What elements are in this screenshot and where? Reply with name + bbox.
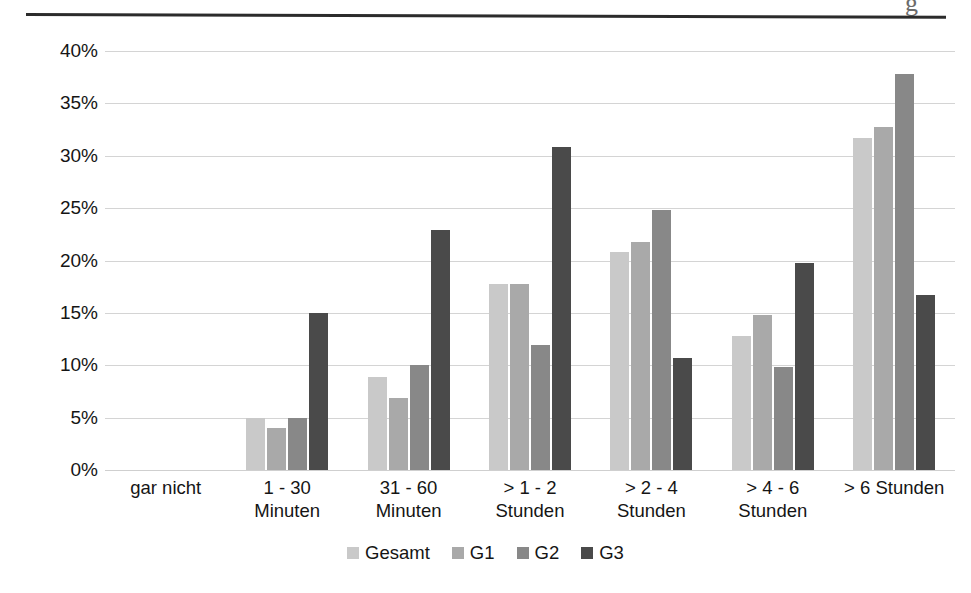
bar[interactable] — [246, 418, 265, 470]
y-axis-tick-label: 40% — [36, 41, 98, 60]
legend-item[interactable]: Gesamt — [347, 543, 430, 563]
bar[interactable] — [631, 242, 650, 470]
legend-swatch-icon — [347, 547, 359, 559]
x-axis-category-label: 1 - 30 Minuten — [226, 476, 347, 522]
y-axis-tick-label: 30% — [36, 146, 98, 165]
y-axis-tick-label: 20% — [36, 251, 98, 270]
bar[interactable] — [916, 295, 935, 470]
legend-label: G3 — [599, 543, 624, 563]
bar[interactable] — [652, 210, 671, 470]
y-axis-tick-label: 35% — [36, 93, 98, 112]
y-axis-tick-label: 0% — [36, 460, 98, 479]
bar[interactable] — [795, 263, 814, 470]
bar-group — [105, 51, 226, 470]
bar[interactable] — [673, 358, 692, 470]
bar[interactable] — [874, 127, 893, 470]
bar[interactable] — [753, 315, 772, 470]
legend-label: Gesamt — [365, 543, 430, 563]
plot-area — [105, 51, 955, 470]
legend-item[interactable]: G3 — [581, 543, 624, 563]
bar[interactable] — [610, 252, 629, 470]
x-axis-labels: gar nicht1 - 30 Minuten31 - 60 Minuten> … — [105, 476, 955, 522]
bar[interactable] — [309, 313, 328, 470]
bar-group — [591, 51, 712, 470]
y-axis-tick-label: 15% — [36, 303, 98, 322]
bar[interactable] — [489, 284, 508, 470]
header-rule — [26, 13, 946, 19]
bar[interactable] — [389, 398, 408, 470]
bar-group — [469, 51, 590, 470]
bar-group — [834, 51, 955, 470]
x-axis-category-label: > 4 - 6 Stunden — [712, 476, 833, 522]
bar[interactable] — [552, 147, 571, 470]
bar[interactable] — [410, 365, 429, 470]
bar-group — [226, 51, 347, 470]
gridline — [105, 470, 955, 471]
legend-item[interactable]: G1 — [452, 543, 495, 563]
legend-swatch-icon — [517, 547, 529, 559]
bar[interactable] — [531, 345, 550, 470]
bar[interactable] — [732, 336, 751, 470]
chart-page: g 0%5%10%15%20%25%30%35%40% gar nicht1 -… — [0, 0, 971, 593]
legend-item[interactable]: G2 — [517, 543, 560, 563]
bar[interactable] — [368, 377, 387, 470]
bar[interactable] — [853, 138, 872, 470]
y-axis-tick-label: 10% — [36, 355, 98, 374]
chart-legend: GesamtG1G2G3 — [0, 543, 971, 563]
legend-swatch-icon — [452, 547, 464, 559]
bar-group — [712, 51, 833, 470]
y-axis-labels: 0%5%10%15%20%25%30%35%40% — [26, 51, 98, 470]
bar-group — [348, 51, 469, 470]
x-axis-category-label: > 1 - 2 Stunden — [469, 476, 590, 522]
bar[interactable] — [267, 428, 286, 470]
bar[interactable] — [510, 284, 529, 470]
legend-label: G1 — [470, 543, 495, 563]
bar-groups — [105, 51, 955, 470]
legend-label: G2 — [535, 543, 560, 563]
bar[interactable] — [288, 418, 307, 470]
y-axis-tick-label: 5% — [36, 408, 98, 427]
bar[interactable] — [895, 74, 914, 470]
bar[interactable] — [431, 230, 450, 470]
x-axis-category-label: gar nicht — [105, 476, 226, 522]
legend-swatch-icon — [581, 547, 593, 559]
y-axis-tick-label: 25% — [36, 198, 98, 217]
x-axis-category-label: > 6 Stunden — [834, 476, 955, 522]
x-axis-category-label: > 2 - 4 Stunden — [591, 476, 712, 522]
x-axis-category-label: 31 - 60 Minuten — [348, 476, 469, 522]
bar[interactable] — [774, 367, 793, 470]
